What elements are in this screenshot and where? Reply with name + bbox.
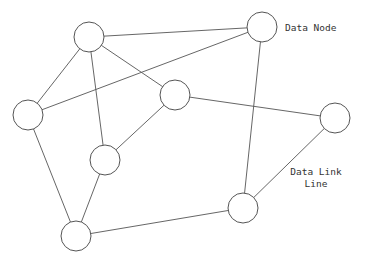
data-node-n5 [320,103,350,133]
link-n1-n6 [89,37,105,160]
network-diagram: Data Node Data Link Line [0,0,365,262]
link-n5-n7 [243,118,335,208]
data-node-n4 [160,80,190,110]
links [28,27,335,236]
nodes [13,12,350,251]
data-node-n7 [228,193,258,223]
link-n3-n2 [28,27,262,115]
data-link-label-line2: Line [305,178,328,189]
link-n2-n7 [243,27,262,208]
link-n8-n7 [76,208,243,236]
link-n1-n4 [89,37,175,95]
data-node-n8 [61,221,91,251]
data-link-label-line1: Data Link [290,166,342,177]
data-node-n6 [90,145,120,175]
data-node-label: Data Node [285,22,337,33]
link-n4-n5 [175,95,335,118]
data-node-n1 [74,22,104,52]
link-n3-n8 [28,115,76,236]
data-node-n3 [13,100,43,130]
data-node-n2 [247,12,277,42]
link-n1-n2 [89,27,262,37]
